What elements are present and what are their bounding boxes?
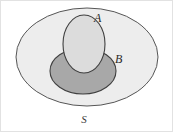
universal-set-label: S bbox=[81, 113, 87, 125]
set-b-label: B bbox=[115, 52, 123, 66]
set-a-label: A bbox=[93, 11, 102, 25]
venn-diagram-figure: A B S bbox=[0, 0, 173, 132]
venn-diagram-canvas: A B S bbox=[1, 1, 173, 132]
